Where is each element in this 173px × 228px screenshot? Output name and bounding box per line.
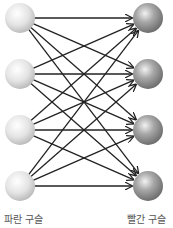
edge-arrow: [30, 29, 136, 122]
left-node: [5, 115, 35, 145]
edge-arrow: [32, 23, 133, 67]
bipartite-diagram: [0, 0, 173, 228]
left-group-label: 파란 구슬: [4, 211, 43, 226]
edge-arrow: [28, 31, 138, 176]
right-node: [133, 115, 163, 145]
edge-arrow: [32, 135, 133, 179]
left-node: [5, 171, 35, 201]
edge-arrow: [30, 27, 136, 120]
right-node: [133, 3, 163, 33]
left-node: [5, 3, 35, 33]
left-node: [5, 59, 35, 89]
edge-arrow: [32, 80, 133, 124]
right-node: [133, 171, 163, 201]
edge-arrow: [32, 79, 133, 123]
edge-arrow: [30, 83, 136, 176]
edge-arrow: [28, 28, 138, 173]
edge-arrow: [32, 24, 133, 68]
right-node: [133, 59, 163, 89]
edge-arrow: [32, 136, 133, 180]
edge-arrow: [30, 85, 136, 178]
right-group-label: 빨간 구슬: [127, 211, 166, 226]
